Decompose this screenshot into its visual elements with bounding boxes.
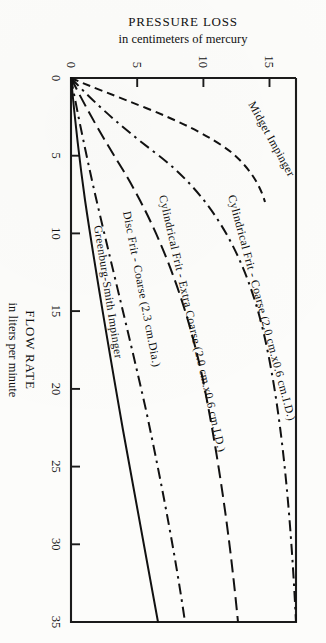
series-label-cylindrical-frit-coarse: Cylindrical Frit - Coarse (2.0 cm.x0.6 c… [225, 193, 298, 422]
y-tick-5: 5 [130, 62, 144, 68]
x-tick-35: 35 [49, 616, 63, 629]
x-tick-10: 10 [49, 227, 63, 240]
y-axis-ticks [71, 78, 270, 87]
x-axis-ticklabels: 0 5 10 15 20 25 30 35 [49, 75, 63, 628]
y-axis-ticklabels: 0 5 10 15 [64, 56, 276, 69]
series-label-midget-impinger: Midget Impinger [245, 99, 297, 179]
x-axis-ticks [71, 78, 80, 622]
y-axis-subtitle: in centimeters of mercury [119, 32, 249, 46]
x-tick-0: 0 [49, 75, 63, 81]
x-tick-5: 5 [49, 153, 63, 159]
y-tick-0: 0 [64, 62, 78, 68]
axis-frame [71, 78, 296, 622]
x-axis-title: FLOW RATE [23, 310, 38, 390]
series-label-cylindrical-frit-extra-coarse: Cylindrical Frit - Extra Coarse (2.0 cm.… [156, 194, 228, 454]
x-axis-subtitle: in liters per minute [6, 303, 20, 398]
pressure-loss-vs-flow-rate-chart: 0 5 10 15 20 25 30 35 0 5 10 15 [0, 0, 326, 643]
series-line-midget-impinger [71, 78, 265, 202]
x-tick-30: 30 [49, 538, 63, 551]
rotated-figure-canvas: 0 5 10 15 20 25 30 35 0 5 10 15 [0, 0, 326, 643]
x-tick-20: 20 [49, 383, 63, 396]
y-axis-title: PRESSURE LOSS [128, 14, 238, 29]
x-tick-25: 25 [49, 460, 63, 473]
series-line-disc-frit-coarse [71, 78, 185, 622]
y-tick-10: 10 [196, 56, 210, 69]
y-tick-15: 15 [262, 56, 276, 69]
figure-page: 0 5 10 15 20 25 30 35 0 5 10 15 [0, 0, 326, 643]
series-line-cylindrical-frit-coarse [71, 78, 296, 622]
x-tick-15: 15 [49, 305, 63, 318]
